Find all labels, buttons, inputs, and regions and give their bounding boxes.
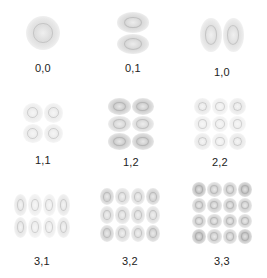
density-lobe [229,133,246,150]
density-lobe [194,133,211,150]
density-lobe [115,206,129,223]
density-lobe [146,225,160,242]
density-lobes [100,188,160,242]
density-lobe [212,116,229,133]
density-lobe [100,188,114,205]
quantum-number-label: 3,1 [22,255,62,267]
density-lobe [207,229,221,244]
quantum-number-label: 1,0 [202,66,242,78]
density-lobe [14,217,27,239]
density-lobe [194,116,211,133]
density-lobes [200,18,244,52]
density-lobe [43,217,56,239]
quantum-number-label: 1,2 [111,156,151,168]
density-lobe [44,103,64,123]
density-lobes [14,194,70,238]
density-lobe [108,98,131,115]
density-lobes [194,98,246,150]
density-lobe [132,133,155,150]
density-lobes [108,98,154,150]
density-lobe [207,182,221,197]
density-lobe [212,133,229,150]
density-lobe [223,18,245,52]
density-lobe [238,214,252,229]
density-lobe [192,198,206,213]
quantum-number-label: 0,0 [23,62,63,74]
density-lobe [115,188,129,205]
density-lobes [26,16,60,50]
density-lobes [23,103,63,143]
density-lobe [200,18,222,52]
density-lobe [44,124,64,144]
density-lobe [115,225,129,242]
density-lobe [146,188,160,205]
density-lobe [229,116,246,133]
quantum-number-label: 3,2 [110,255,150,267]
density-lobe [223,214,237,229]
quantum-number-label: 0,1 [113,62,153,74]
density-lobe [108,133,131,150]
density-lobe [57,194,70,216]
density-lobe [192,182,206,197]
density-lobe [238,182,252,197]
density-lobe [132,98,155,115]
density-lobe [100,225,114,242]
density-lobe [131,225,145,242]
density-lobe [229,98,246,115]
density-lobe [132,116,155,133]
density-lobe [192,214,206,229]
density-lobe [207,214,221,229]
density-lobe [223,198,237,213]
density-lobe [212,98,229,115]
density-lobe [117,12,149,33]
density-lobe [131,206,145,223]
quantum-number-label: 1,1 [23,154,63,166]
density-lobe [223,182,237,197]
density-lobe [238,229,252,244]
density-lobe [207,198,221,213]
density-lobe [223,229,237,244]
density-lobe [194,98,211,115]
density-lobe [28,217,41,239]
density-lobe [192,229,206,244]
density-lobes [192,182,252,244]
quantum-number-label: 3,3 [202,255,242,267]
density-lobe [23,124,43,144]
density-lobe [43,194,56,216]
density-lobe [57,217,70,239]
density-lobe [108,116,131,133]
density-lobe [23,103,43,123]
density-lobe [14,194,27,216]
density-lobe [238,198,252,213]
density-lobe [146,206,160,223]
density-lobe [131,188,145,205]
quantum-number-label: 2,2 [200,156,240,168]
density-lobe [26,16,60,50]
density-lobe [117,34,149,55]
density-lobe [28,194,41,216]
density-lobes [117,12,149,54]
density-lobe [100,206,114,223]
